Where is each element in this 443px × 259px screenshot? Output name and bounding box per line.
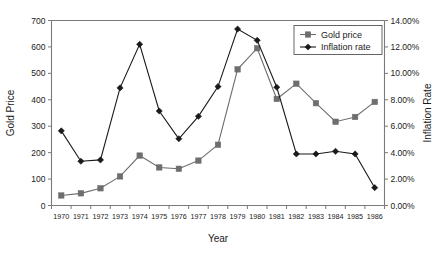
data-point-marker	[117, 85, 123, 91]
legend-swatch-marker	[305, 32, 310, 37]
y2-axis-tick-label: 6.00%	[391, 121, 416, 131]
y2-axis-tick-label: 2.00%	[391, 174, 416, 184]
data-point-marker	[78, 191, 83, 196]
y-axis-tick-label: 200	[31, 148, 45, 158]
series-line-gold-price	[61, 48, 374, 195]
chart-canvas: 0100200300400500600700 0.00%2.00%4.00%6.…	[0, 0, 443, 259]
chart-legend: Gold priceInflation rate	[294, 26, 382, 55]
data-point-marker	[196, 158, 201, 163]
data-point-marker	[157, 165, 162, 170]
data-point-marker	[372, 185, 378, 191]
data-point-marker	[332, 148, 338, 154]
x-axis-tick-label: 1972	[92, 212, 108, 221]
data-point-marker	[137, 41, 143, 47]
gold-price-inflation-rate-chart: 0100200300400500600700 0.00%2.00%4.00%6.…	[0, 0, 443, 259]
data-point-marker	[352, 114, 357, 119]
x-axis-tick-label: 1970	[53, 212, 69, 221]
x-axis-tick-label: 1976	[171, 212, 187, 221]
data-point-marker	[274, 84, 280, 90]
data-point-marker	[117, 174, 122, 179]
x-axis-tick-label: 1971	[73, 212, 89, 221]
legend-label: Inflation rate	[321, 42, 371, 52]
x-axis-year: 1970197119721973197419751976197719781979…	[52, 206, 385, 221]
data-point-marker	[372, 99, 377, 104]
data-point-marker	[274, 96, 279, 101]
y2-axis-tick-label: 10.00%	[391, 68, 420, 78]
left-axis-gold-price: 0100200300400500600700	[31, 16, 51, 211]
x-axis-tick-label: 1974	[132, 212, 148, 221]
data-point-marker	[254, 46, 259, 51]
y2-axis-tick-label: 8.00%	[391, 95, 416, 105]
y-axis-tick-label: 400	[31, 95, 45, 105]
data-point-marker	[294, 81, 299, 86]
data-point-marker	[333, 119, 338, 124]
data-point-marker	[234, 26, 240, 32]
y-axis-title: Gold Price	[5, 89, 16, 136]
x-axis-tick-label: 1983	[308, 212, 324, 221]
x-axis-tick-label: 1982	[288, 212, 304, 221]
legend-label: Gold price	[321, 30, 362, 40]
x-axis-tick-label: 1980	[249, 212, 265, 221]
x-axis-tick-label: 1973	[112, 212, 128, 221]
x-axis-tick-label: 1985	[347, 212, 363, 221]
data-point-marker	[215, 142, 220, 147]
data-point-marker	[313, 101, 318, 106]
x-axis-tick-label: 1986	[367, 212, 383, 221]
data-point-marker	[176, 166, 181, 171]
y2-axis-tick-label: 0.00%	[391, 201, 416, 211]
data-point-marker	[58, 128, 64, 134]
data-point-marker	[59, 193, 64, 198]
y2-axis-tick-label: 12.00%	[391, 42, 420, 52]
data-point-marker	[215, 83, 221, 89]
x-axis-tick-label: 1978	[210, 212, 226, 221]
data-point-marker	[137, 153, 142, 158]
x-axis-tick-label: 1979	[230, 212, 246, 221]
y2-axis-tick-label: 14.00%	[391, 16, 420, 26]
y-axis-tick-label: 100	[31, 174, 45, 184]
x-axis-tick-label: 1981	[269, 212, 285, 221]
right-axis-inflation-rate: 0.00%2.00%4.00%6.00%8.00%10.00%12.00%14.…	[385, 16, 420, 211]
data-point-marker	[352, 151, 358, 157]
y-axis-tick-label: 300	[31, 121, 45, 131]
x-axis-title: Year	[208, 233, 229, 244]
y-axis-tick-label: 600	[31, 42, 45, 52]
x-axis-tick-label: 1984	[328, 212, 344, 221]
y2-axis-title: Inflation Rate	[422, 83, 433, 142]
x-axis-tick-label: 1975	[151, 212, 167, 221]
y-axis-tick-label: 700	[31, 16, 45, 26]
y2-axis-tick-label: 4.00%	[391, 148, 416, 158]
y-axis-tick-label: 500	[31, 68, 45, 78]
y-axis-tick-label: 0	[41, 201, 46, 211]
data-point-marker	[293, 151, 299, 157]
data-point-marker	[254, 37, 260, 43]
data-point-marker	[235, 67, 240, 72]
data-point-marker	[97, 157, 103, 163]
data-point-marker	[78, 158, 84, 164]
data-point-marker	[313, 151, 319, 157]
x-axis-tick-label: 1977	[190, 212, 206, 221]
data-point-marker	[98, 186, 103, 191]
